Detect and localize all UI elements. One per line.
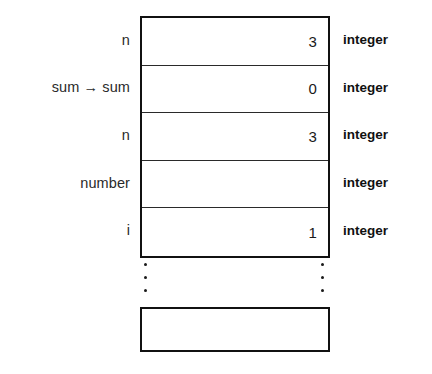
ellipsis-dot [321,263,324,266]
variable-name-label: sum → sum [0,64,130,112]
type-label: integer [343,111,432,159]
type-column: integer integer integer integer integer [343,16,432,254]
cell-value: 0 [308,81,328,96]
cell-value: 3 [308,129,328,144]
variable-name-label: n [0,16,130,64]
stack-cell [142,161,328,209]
cell-value: 1 [308,225,328,240]
stack-box: 3 0 3 1 [140,16,330,258]
ellipsis-dot [321,276,324,279]
variable-name-label: number [0,159,130,207]
type-label: integer [343,16,432,64]
stack-cell: 0 [142,66,328,114]
variable-name-column: n sum → sum n number i [0,16,130,254]
ellipsis-dot [321,289,324,292]
stack-cell: 1 [142,208,328,256]
ellipsis-dot [144,289,147,292]
empty-frame-box [140,307,330,352]
cell-value: 3 [308,34,328,49]
type-label: integer [343,159,432,207]
type-label: integer [343,64,432,112]
stack-cell-list: 3 0 3 1 [142,18,328,256]
vertical-ellipsis-right-icon [321,262,325,302]
stack-cell: 3 [142,113,328,161]
ellipsis-dot [144,263,147,266]
stack-cell: 3 [142,18,328,66]
type-label: integer [343,206,432,254]
vertical-ellipsis-left-icon [144,262,148,302]
ellipsis-dot [144,276,147,279]
variable-name-label: n [0,111,130,159]
stack-frame-diagram: n sum → sum n number i 3 0 3 1 integer [0,0,432,374]
variable-name-label: i [0,206,130,254]
